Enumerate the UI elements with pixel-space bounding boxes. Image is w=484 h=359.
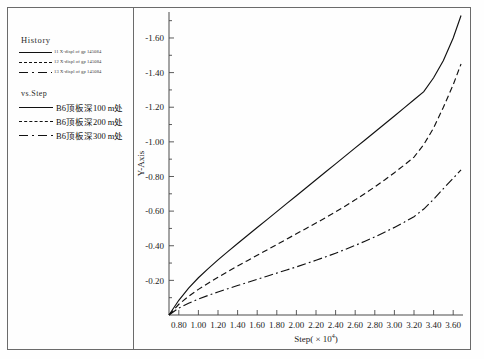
y-tick-label: -1.00 <box>145 137 164 147</box>
line-style-solid-icon <box>19 48 52 55</box>
legend-history-title: History <box>21 35 131 45</box>
x-axis-title-suffix: ) <box>335 334 338 344</box>
x-tick-label: 2.20 <box>308 320 324 330</box>
y-tick-label: -0.40 <box>145 241 164 251</box>
x-axis-title: Step( × 104) <box>294 333 338 344</box>
x-tick-label: 1.80 <box>269 320 285 330</box>
legend-series-label: B6顶板深100 m处 <box>56 101 123 113</box>
legend-series-item: B6顶板深300 m处 <box>19 128 131 141</box>
y-tick-label: -1.20 <box>145 102 164 112</box>
x-tick-label: 1.00 <box>191 320 207 330</box>
x-tick-label: 2.80 <box>367 320 383 330</box>
legend-panel: History 11 X-displ of gp 145084 12 X-dis… <box>8 8 134 349</box>
series-line <box>169 170 461 315</box>
legend-history-label: 11 X-displ of gp 145084 <box>54 49 101 54</box>
legend-history-item: 12 X-displ of gp 145084 <box>19 57 131 66</box>
legend-series-label: B6顶板深300 m处 <box>56 129 123 141</box>
line-style-solid-icon <box>19 103 53 111</box>
x-tick-label: 2.00 <box>289 320 305 330</box>
x-tick-label: 1.40 <box>230 320 246 330</box>
x-tick-label: 2.40 <box>328 320 344 330</box>
x-axis: 0.801.001.201.401.601.802.002.202.402.60… <box>169 310 463 330</box>
legend-series-item: B6顶板深100 m处 <box>19 100 131 113</box>
y-tick-label: -1.60 <box>145 33 164 43</box>
line-style-dashdot-icon <box>19 68 52 75</box>
data-curves <box>169 15 461 315</box>
y-tick-label: -0.20 <box>145 276 164 286</box>
legend-series-label: B6顶板深200 m处 <box>56 115 123 127</box>
x-axis-title-base: Step( × 10 <box>294 334 332 344</box>
x-tick-label: 3.40 <box>426 320 442 330</box>
x-tick-label: 3.60 <box>445 320 461 330</box>
y-tick-label: -0.80 <box>145 172 164 182</box>
legend-history-label: 12 X-displ of gp 145084 <box>54 59 101 64</box>
x-tick-label: 3.20 <box>406 320 422 330</box>
x-tick-label: 0.80 <box>171 320 187 330</box>
legend-content: History 11 X-displ of gp 145084 12 X-dis… <box>19 35 131 141</box>
chart-page: History 11 X-displ of gp 145084 12 X-dis… <box>0 0 484 359</box>
y-tick-label: -1.40 <box>145 68 164 78</box>
series-line <box>169 15 461 315</box>
plot-region: -0.20-0.40-0.60-0.80-1.00-1.20-1.40-1.60… <box>134 8 471 349</box>
x-tick-label: 1.60 <box>249 320 265 330</box>
y-axis-title: Y-Axis <box>136 150 146 176</box>
series-line <box>169 64 461 315</box>
y-tick-label: -0.60 <box>145 206 164 216</box>
line-style-dashdot-icon <box>19 131 53 139</box>
x-tick-label: 2.60 <box>347 320 363 330</box>
legend-history-item: 13 X-displ of gp 145084 <box>19 67 131 76</box>
legend-vs-step-title: vs.Step <box>21 89 131 98</box>
x-tick-label: 1.20 <box>210 320 226 330</box>
line-style-dashed-icon <box>19 117 53 125</box>
x-tick-label: 3.00 <box>387 320 403 330</box>
line-style-dashed-icon <box>19 58 52 65</box>
line-chart: -0.20-0.40-0.60-0.80-1.00-1.20-1.40-1.60… <box>134 8 471 349</box>
legend-history-item: 11 X-displ of gp 145084 <box>19 47 131 56</box>
y-axis: -0.20-0.40-0.60-0.80-1.00-1.20-1.40-1.60 <box>145 12 174 315</box>
legend-history-label: 13 X-displ of gp 145084 <box>54 69 101 74</box>
legend-series-item: B6顶板深200 m处 <box>19 114 131 127</box>
